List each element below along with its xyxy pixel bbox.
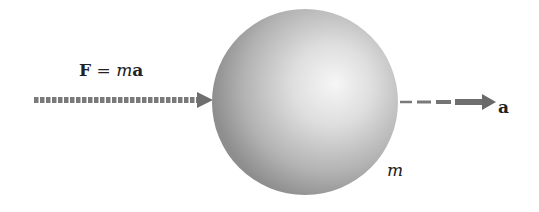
acceleration-symbol-inline: a (132, 60, 143, 80)
acceleration-label: a (498, 97, 509, 117)
force-equation-label: F = ma (79, 60, 143, 80)
diagram-canvas: F = ma a m (0, 0, 539, 212)
force-symbol: F (79, 60, 91, 80)
diagram-graphics (0, 0, 539, 212)
mass-sphere (212, 9, 398, 195)
force-arrow (34, 92, 213, 108)
equals-sign: = (91, 60, 116, 80)
acceleration-arrow (400, 94, 496, 110)
mass-label: m (387, 160, 403, 180)
mass-symbol-inline: m (116, 60, 132, 80)
